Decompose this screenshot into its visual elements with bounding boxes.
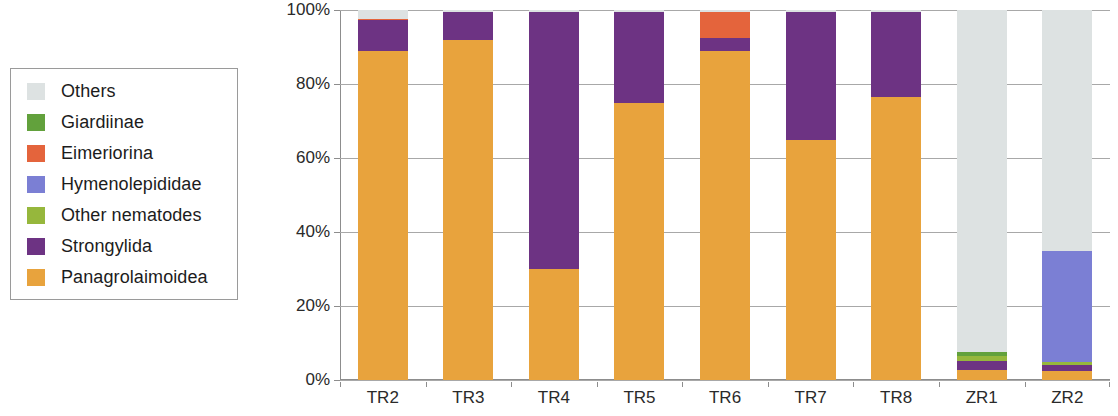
bar-segment[interactable] <box>358 20 408 50</box>
bar-segment[interactable] <box>614 12 664 102</box>
x-tick-label: TR7 <box>795 388 827 408</box>
bar-segment[interactable] <box>871 97 921 380</box>
x-axis-ticks: TR2TR3TR4TR5TR6TR7TR8ZR1ZR2 <box>340 382 1110 412</box>
stacked-bar[interactable] <box>871 10 921 380</box>
legend-swatch <box>27 145 45 162</box>
bar-segment[interactable] <box>1042 10 1092 251</box>
bar-segment[interactable] <box>871 12 921 97</box>
legend-item[interactable]: Others <box>27 77 237 105</box>
chart-root: OthersGiardiinaeEimeriorinaHymenolepidid… <box>0 0 1118 416</box>
gridline: 0% <box>340 380 1110 381</box>
y-tick-mark <box>334 380 340 381</box>
bar-segment[interactable] <box>614 103 664 381</box>
bar-slot <box>939 10 1025 380</box>
legend-item[interactable]: Eimeriorina <box>27 139 237 167</box>
bar-segment[interactable] <box>786 140 836 381</box>
legend-swatch <box>27 207 45 224</box>
stacked-bar[interactable] <box>358 10 408 380</box>
x-tick-slot: ZR1 <box>939 382 1025 412</box>
chart-legend: OthersGiardiinaeEimeriorinaHymenolepidid… <box>10 68 238 300</box>
bar-slot <box>426 10 512 380</box>
stacked-bar[interactable] <box>957 10 1007 380</box>
bar-segment[interactable] <box>700 38 750 51</box>
x-tick-label: TR3 <box>452 388 484 408</box>
legend-item[interactable]: Hymenolepididae <box>27 170 237 198</box>
y-tick-label: 0% <box>305 370 330 390</box>
x-tick-label: ZR2 <box>1051 388 1083 408</box>
legend-item-label: Panagrolaimoidea <box>61 267 208 288</box>
x-tick-slot: ZR2 <box>1025 382 1111 412</box>
x-tick-mark <box>939 382 940 387</box>
legend-swatch <box>27 114 45 131</box>
bar-slot <box>853 10 939 380</box>
stacked-bar[interactable] <box>700 10 750 380</box>
bar-slot <box>597 10 683 380</box>
bar-segment[interactable] <box>443 12 493 39</box>
x-tick-slot: TR3 <box>426 382 512 412</box>
legend-item-label: Giardiinae <box>61 112 144 133</box>
x-tick-mark <box>426 382 427 387</box>
stacked-bar[interactable] <box>443 10 493 380</box>
x-tick-slot: TR8 <box>853 382 939 412</box>
bar-slot <box>511 10 597 380</box>
x-tick-mark <box>511 382 512 387</box>
y-tick-label: 80% <box>296 74 330 94</box>
legend-item-label: Hymenolepididae <box>61 174 202 195</box>
x-tick-mark <box>340 382 341 387</box>
bar-segment[interactable] <box>1042 371 1092 380</box>
x-tick-mark <box>853 382 854 387</box>
bar-segment[interactable] <box>957 361 1007 370</box>
bar-segment[interactable] <box>358 10 408 19</box>
bar-slot <box>340 10 426 380</box>
bar-segment[interactable] <box>443 40 493 380</box>
bar-slot <box>1025 10 1111 380</box>
y-tick-label: 100% <box>287 0 330 20</box>
stacked-bar[interactable] <box>529 10 579 380</box>
stacked-bar[interactable] <box>1042 10 1092 380</box>
bar-segment[interactable] <box>957 370 1007 380</box>
bar-segment[interactable] <box>700 51 750 380</box>
legend-swatch <box>27 269 45 286</box>
x-tick-slot: TR7 <box>768 382 854 412</box>
bar-slot <box>682 10 768 380</box>
legend-item[interactable]: Panagrolaimoidea <box>27 263 237 291</box>
x-tick-mark <box>1025 382 1026 387</box>
bar-segment[interactable] <box>529 12 579 269</box>
x-tick-label: TR6 <box>709 388 741 408</box>
x-tick-label: TR5 <box>623 388 655 408</box>
legend-item-label: Eimeriorina <box>61 143 153 164</box>
legend-item-label: Strongylida <box>61 236 152 257</box>
bar-group <box>340 10 1110 380</box>
x-tick-slot: TR6 <box>682 382 768 412</box>
y-tick-label: 60% <box>296 148 330 168</box>
legend-swatch <box>27 238 45 255</box>
x-tick-slot: TR5 <box>597 382 683 412</box>
legend-item[interactable]: Strongylida <box>27 232 237 260</box>
bar-segment[interactable] <box>358 51 408 380</box>
bar-segment[interactable] <box>700 12 750 38</box>
legend-swatch <box>27 176 45 193</box>
bar-slot <box>768 10 854 380</box>
bar-segment[interactable] <box>1042 251 1092 362</box>
plot-area: 0%20%40%60%80%100% <box>340 10 1110 380</box>
legend-item-label: Others <box>61 81 116 102</box>
legend-item[interactable]: Giardiinae <box>27 108 237 136</box>
bar-segment[interactable] <box>957 10 1007 352</box>
y-tick-label: 20% <box>296 296 330 316</box>
x-tick-slot: TR4 <box>511 382 597 412</box>
bar-segment[interactable] <box>786 12 836 139</box>
y-tick-label: 40% <box>296 222 330 242</box>
legend-item[interactable]: Other nematodes <box>27 201 237 229</box>
x-tick-label: TR8 <box>880 388 912 408</box>
legend-item-label: Other nematodes <box>61 205 202 226</box>
stacked-bar[interactable] <box>786 10 836 380</box>
x-tick-mark <box>1109 382 1110 387</box>
x-tick-label: TR4 <box>538 388 570 408</box>
legend-swatch <box>27 83 45 100</box>
bar-segment[interactable] <box>529 269 579 380</box>
x-tick-mark <box>768 382 769 387</box>
x-tick-slot: TR2 <box>340 382 426 412</box>
stacked-bar[interactable] <box>614 10 664 380</box>
x-tick-label: TR2 <box>367 388 399 408</box>
x-tick-mark <box>682 382 683 387</box>
